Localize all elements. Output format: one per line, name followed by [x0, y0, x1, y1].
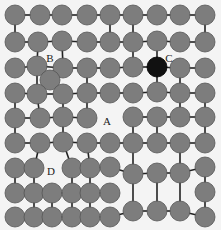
graph-node — [195, 5, 215, 25]
graph-node — [195, 83, 215, 103]
graph-node — [123, 5, 143, 25]
graph-node — [77, 83, 97, 103]
region-label-b: B — [46, 52, 53, 64]
graph-node — [30, 133, 50, 153]
graph-node — [5, 158, 25, 178]
graph-node — [123, 201, 143, 221]
graph-node — [195, 133, 215, 153]
graph-node — [147, 163, 167, 183]
graph-node — [62, 183, 82, 203]
graph-node — [147, 133, 167, 153]
graph-node — [170, 83, 190, 103]
region-label-d: D — [47, 165, 55, 177]
graph-node — [80, 158, 100, 178]
graph-node — [147, 31, 167, 51]
graph-node — [24, 183, 44, 203]
graph-node — [123, 107, 143, 127]
graph-node — [62, 158, 82, 178]
graph-node — [123, 57, 143, 77]
graph-node — [77, 58, 97, 78]
graph-node — [195, 207, 215, 227]
graph-node — [62, 207, 82, 227]
graph-node — [100, 183, 120, 203]
graph-node — [42, 207, 62, 227]
graph-node — [123, 32, 143, 52]
graph-node — [5, 133, 25, 153]
graph-node — [147, 82, 167, 102]
graph-node — [100, 133, 120, 153]
graph-node — [52, 5, 72, 25]
graph-node — [195, 182, 215, 202]
graph-node — [123, 83, 143, 103]
graph-node — [100, 83, 120, 103]
graph-node — [5, 183, 25, 203]
graph-node — [5, 32, 25, 52]
graph-node — [195, 58, 215, 78]
graph-node — [53, 107, 73, 127]
graph-node — [100, 5, 120, 25]
graph-node — [53, 132, 73, 152]
graph-node — [80, 183, 100, 203]
region-label-a: A — [103, 115, 111, 127]
graph-node — [30, 108, 50, 128]
graph-node — [5, 5, 25, 25]
graph-node — [24, 207, 44, 227]
graph-node — [123, 133, 143, 153]
graph-node — [170, 201, 190, 221]
graph-node — [77, 5, 97, 25]
graph-node — [30, 5, 50, 25]
graph-node — [147, 5, 167, 25]
graph-node — [170, 163, 190, 183]
graph-node — [77, 133, 97, 153]
graph-node — [100, 58, 120, 78]
graph-node — [27, 84, 47, 104]
graph-node — [170, 5, 190, 25]
graph-node — [24, 158, 44, 178]
grid-graph-diagram: BCAD — [0, 0, 221, 230]
graph-node — [100, 32, 120, 52]
graph-node — [77, 32, 97, 52]
graph-node — [5, 83, 25, 103]
graph-node — [123, 164, 143, 184]
highlighted-node — [147, 57, 167, 77]
graph-node — [53, 84, 73, 104]
graph-node — [100, 157, 120, 177]
graph-node — [195, 157, 215, 177]
graph-node — [52, 31, 72, 51]
graph-node — [170, 58, 190, 78]
graph-node — [28, 32, 48, 52]
graph-node — [195, 107, 215, 127]
graph-node — [147, 201, 167, 221]
graph-canvas: BCAD — [0, 0, 221, 230]
graph-node — [170, 32, 190, 52]
graph-node — [170, 107, 190, 127]
graph-node — [77, 108, 97, 128]
graph-node — [42, 183, 62, 203]
graph-node — [195, 32, 215, 52]
graph-node — [170, 133, 190, 153]
graph-node — [5, 108, 25, 128]
graph-node — [5, 207, 25, 227]
graph-node — [5, 58, 25, 78]
graph-node — [147, 107, 167, 127]
region-label-c: C — [165, 52, 172, 64]
graph-node — [80, 207, 100, 227]
graph-node — [100, 207, 120, 227]
